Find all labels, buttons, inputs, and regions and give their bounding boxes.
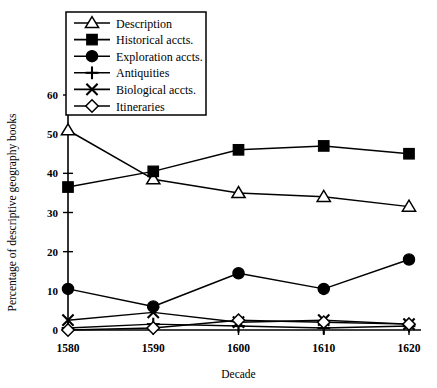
y-tick-label-30: 30 — [47, 207, 59, 219]
x-tick-label-1590: 1590 — [142, 342, 165, 354]
y-axis-title: Percentage of descriptive geography book… — [6, 113, 19, 312]
series-description — [61, 124, 415, 211]
data-point-1580 — [61, 124, 74, 135]
y-tick-label-20: 20 — [47, 246, 59, 258]
data-point-1590 — [148, 301, 159, 312]
series-layer — [61, 124, 415, 336]
axis-labels: DecadePercentage of descriptive geograph… — [6, 113, 256, 380]
x-axis-title: Decade — [221, 368, 255, 380]
data-point-1600 — [233, 145, 243, 155]
legend-label: Exploration accts. — [116, 50, 203, 64]
data-point-1620 — [404, 149, 414, 159]
x-tick-label-1580: 1580 — [57, 342, 80, 354]
legend-label: Historical accts. — [116, 33, 193, 47]
y-tick-label-50: 50 — [47, 128, 59, 140]
y-tick-label-40: 40 — [47, 167, 59, 179]
data-point-1590 — [148, 166, 158, 176]
y-tick-label-10: 10 — [47, 285, 59, 297]
chart-legend[interactable]: DescriptionHistorical accts.Exploration … — [66, 12, 206, 115]
y-tick-label-0: 0 — [53, 324, 59, 336]
line-chart-svg: 010203040506015801590160016101620 Decade… — [0, 0, 437, 388]
legend-marker-square-filled — [87, 34, 97, 44]
legend-label: Biological accts. — [116, 83, 196, 97]
data-point-1600 — [233, 268, 244, 279]
legend-marker-circle-filled — [86, 51, 97, 62]
data-point-1610 — [318, 283, 329, 294]
legend-item-historical-accts[interactable]: Historical accts. — [74, 33, 193, 47]
axes: 010203040506015801590160016101620 — [47, 89, 421, 354]
data-point-1580 — [63, 182, 73, 192]
x-tick-label-1610: 1610 — [312, 342, 335, 354]
data-point-1600 — [232, 314, 244, 326]
data-point-1620 — [403, 254, 414, 265]
legend-label: Itineraries — [116, 100, 165, 114]
series-polyline — [68, 260, 409, 307]
y-tick-label-60: 60 — [47, 89, 59, 101]
series-historical-accts — [63, 141, 414, 193]
legend-label: Antiquities — [116, 66, 170, 80]
data-point-1610 — [318, 316, 330, 328]
x-tick-label-1600: 1600 — [227, 342, 250, 354]
legend-label: Description — [116, 17, 172, 31]
chart-figure: 010203040506015801590160016101620 Decade… — [0, 0, 437, 388]
legend-item-exploration-accts[interactable]: Exploration accts. — [74, 50, 203, 64]
data-point-1610 — [319, 141, 329, 151]
series-exploration-accts — [62, 254, 414, 312]
data-point-1580 — [62, 283, 73, 294]
x-tick-label-1620: 1620 — [398, 342, 421, 354]
